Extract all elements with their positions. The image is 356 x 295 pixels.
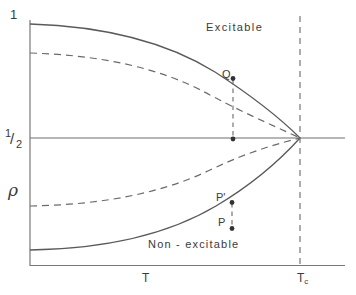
half-denominator: 2 — [16, 139, 22, 150]
point-label-q: Q — [222, 69, 231, 80]
region-label-excitable: Excitable — [206, 22, 263, 33]
p-prime-point-marker — [230, 200, 235, 205]
p-point-marker — [230, 226, 235, 231]
x-axis-label-T: T — [142, 272, 150, 284]
region-label-non-excitable: Non - excitable — [148, 239, 239, 250]
q-arrow-tip-marker — [231, 137, 236, 142]
lower-solid-branch — [30, 138, 300, 250]
plot-canvas — [0, 0, 356, 295]
lower-dashed-branch — [30, 138, 300, 206]
point-label-p: P — [218, 217, 225, 228]
y-axis-tick-label-one: 1 — [10, 8, 17, 21]
phase-diagram-figure: 1 1 / 2 ρ T Tc Excitable Non - excitable… — [0, 0, 356, 295]
y-axis-label-rho: ρ — [8, 182, 18, 199]
q-point-marker — [231, 76, 236, 81]
upper-solid-branch — [30, 24, 300, 138]
upper-dashed-branch — [30, 53, 300, 138]
half-slash: / — [10, 131, 14, 146]
point-label-p-prime: P' — [216, 192, 225, 203]
tc-subscript: c — [304, 277, 308, 286]
x-axis-label-tc: Tc — [297, 272, 308, 286]
